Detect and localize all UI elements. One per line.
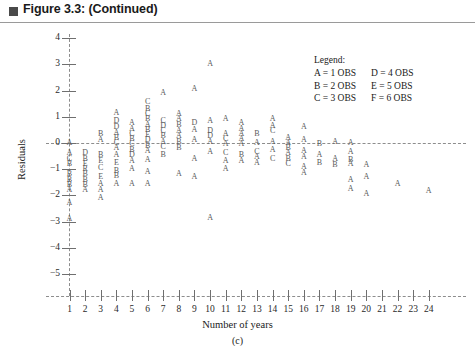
data-point: A bbox=[252, 139, 262, 147]
data-point: A bbox=[268, 146, 278, 154]
x-tick bbox=[273, 290, 274, 301]
x-tick bbox=[257, 290, 258, 301]
data-point: B bbox=[174, 144, 184, 152]
data-point: A bbox=[205, 60, 215, 68]
data-point: A bbox=[80, 186, 90, 194]
data-point: A bbox=[65, 139, 75, 147]
x-axis-title: Number of years bbox=[0, 319, 475, 330]
data-point: A bbox=[189, 85, 199, 93]
data-point: B bbox=[158, 151, 168, 159]
x-tick bbox=[85, 290, 86, 301]
x-tick bbox=[148, 290, 149, 301]
y-tick bbox=[62, 38, 76, 39]
data-point: A bbox=[346, 160, 356, 168]
data-point: A bbox=[96, 136, 106, 144]
x-tick bbox=[132, 290, 133, 301]
legend-entry-right: E = 5 OBS bbox=[371, 80, 413, 92]
legend-entry-right: F = 6 OBS bbox=[371, 92, 412, 104]
data-point: A bbox=[424, 187, 434, 195]
x-tick bbox=[382, 290, 383, 301]
x-tick bbox=[429, 290, 430, 301]
figure-container: Figure 3.3: (Continued) 43210−1−2−3−4−5 … bbox=[0, 0, 475, 346]
data-point: A bbox=[361, 190, 371, 198]
header-divider bbox=[0, 22, 475, 23]
x-tick bbox=[179, 290, 180, 301]
x-tick bbox=[241, 290, 242, 301]
data-point: A bbox=[189, 126, 199, 134]
data-point: A bbox=[299, 153, 309, 161]
legend-row: B = 2 OBSE = 5 OBS bbox=[314, 80, 414, 92]
legend-rows: A = 1 OBSD = 4 OBSB = 2 OBSE = 5 OBSC = … bbox=[314, 67, 414, 104]
legend-entry-left: B = 2 OBS bbox=[314, 80, 371, 92]
data-point: B bbox=[314, 140, 324, 148]
data-point: B bbox=[252, 130, 262, 138]
x-tick bbox=[304, 290, 305, 301]
data-point: A bbox=[205, 214, 215, 222]
x-tick bbox=[194, 290, 195, 301]
data-point: A bbox=[143, 180, 153, 188]
data-point: A bbox=[221, 140, 231, 148]
legend-row: C = 3 OBSF = 6 OBS bbox=[314, 92, 414, 104]
data-point: A bbox=[65, 186, 75, 194]
x-tick bbox=[413, 290, 414, 301]
page-title: Figure 3.3: (Continued) bbox=[23, 2, 158, 16]
data-point: A bbox=[330, 138, 340, 146]
x-tick-label: 24 bbox=[418, 304, 440, 314]
x-tick bbox=[101, 290, 102, 301]
filled-square-icon bbox=[9, 7, 18, 16]
data-point: A bbox=[174, 170, 184, 178]
scatter-plot: 43210−1−2−3−4−5 123456789101112131415161… bbox=[0, 24, 475, 346]
figure-header: Figure 3.3: (Continued) bbox=[0, 0, 475, 24]
data-point: A bbox=[65, 199, 75, 207]
y-tick bbox=[62, 64, 76, 65]
x-tick bbox=[70, 290, 71, 301]
legend-entry-right: D = 4 OBS bbox=[371, 67, 414, 79]
data-point: A bbox=[236, 157, 246, 165]
data-point: A bbox=[393, 180, 403, 188]
x-tick bbox=[319, 290, 320, 301]
data-point: A bbox=[189, 136, 199, 144]
data-point: A bbox=[96, 194, 106, 202]
data-point: A bbox=[299, 123, 309, 131]
data-point: A bbox=[346, 139, 356, 147]
data-point: A bbox=[127, 180, 137, 188]
y-axis-title: Residuals bbox=[16, 125, 27, 195]
data-point: A bbox=[143, 168, 153, 176]
data-point: A bbox=[205, 148, 215, 156]
data-point: B bbox=[314, 159, 324, 167]
x-tick bbox=[163, 290, 164, 301]
data-point: A bbox=[221, 115, 231, 123]
data-point: B bbox=[330, 161, 340, 169]
data-point: A bbox=[205, 138, 215, 146]
data-point: C bbox=[283, 160, 293, 168]
y-tick-label: 2 bbox=[34, 85, 60, 95]
x-tick bbox=[398, 290, 399, 301]
legend-entry-left: A = 1 OBS bbox=[314, 67, 371, 79]
data-point: C bbox=[268, 127, 278, 135]
y-tick-label: −3 bbox=[34, 216, 60, 226]
y-tick-label: −5 bbox=[34, 268, 60, 278]
y-tick-label: 3 bbox=[34, 58, 60, 68]
y-tick-label: 0 bbox=[34, 137, 60, 147]
data-point: A bbox=[299, 136, 309, 144]
data-point: A bbox=[346, 185, 356, 193]
data-point: A bbox=[143, 147, 153, 155]
data-point: A bbox=[236, 140, 246, 148]
x-tick bbox=[210, 290, 211, 301]
y-tick-label: 1 bbox=[34, 111, 60, 121]
data-point: C bbox=[268, 155, 278, 163]
sub-caption: (c) bbox=[0, 335, 475, 346]
legend: Legend: A = 1 OBSD = 4 OBSB = 2 OBSE = 5… bbox=[314, 54, 414, 105]
data-point: A bbox=[143, 156, 153, 164]
legend-entry-left: C = 3 OBS bbox=[314, 92, 371, 104]
data-point: A bbox=[346, 176, 356, 184]
y-tick bbox=[62, 248, 76, 249]
data-point: A bbox=[361, 161, 371, 169]
data-point: A bbox=[65, 215, 75, 223]
x-tick bbox=[366, 290, 367, 301]
data-point: A bbox=[189, 173, 199, 181]
data-point: A bbox=[299, 169, 309, 177]
x-tick bbox=[226, 290, 227, 301]
y-tick-label: 4 bbox=[34, 32, 60, 42]
data-point: A bbox=[189, 155, 199, 163]
